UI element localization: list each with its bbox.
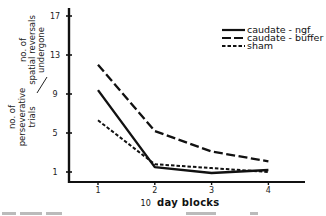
svg-text:perseverative: perseverative xyxy=(17,88,27,147)
x-axis-label: 10 day blocks xyxy=(140,197,219,208)
y-label-denominator: no. of spatial reversals undergone xyxy=(18,15,46,85)
svg-text:trials: trials xyxy=(27,106,37,128)
y-label-separator xyxy=(37,77,47,93)
y-tick-label: 9 xyxy=(52,90,57,99)
x-tick-label: 1 xyxy=(95,186,100,195)
line-chart: 1591317 1234 caudate - ngf caudate - buf… xyxy=(0,0,326,212)
series-lines xyxy=(98,65,268,173)
y-tick-label: 1 xyxy=(52,168,57,177)
y-tick-label: 5 xyxy=(52,129,57,138)
legend-label: sham xyxy=(247,40,273,51)
series-line-solid xyxy=(98,90,268,173)
x-tick-label: 3 xyxy=(209,186,214,195)
y-tick-label: 13 xyxy=(50,51,60,60)
y-axis-label: no. of perseverative trials no. of spati… xyxy=(7,15,47,147)
clipped-caption-fragment xyxy=(0,212,326,216)
legend: caudate - ngf caudate - buffer sham xyxy=(222,24,323,51)
x-tick-label: 2 xyxy=(152,186,157,195)
x-tick-label: 4 xyxy=(266,186,271,195)
x-ticks: 1234 xyxy=(95,182,270,195)
legend-item-sham: sham xyxy=(222,40,273,51)
y-label-numerator: no. of perseverative trials xyxy=(7,88,37,147)
y-tick-label: 17 xyxy=(50,12,60,21)
svg-text:no. of: no. of xyxy=(7,104,17,129)
series-line-long-dash xyxy=(98,65,268,162)
series-line-short-dash xyxy=(98,120,268,172)
svg-text:undergone: undergone xyxy=(36,27,46,73)
